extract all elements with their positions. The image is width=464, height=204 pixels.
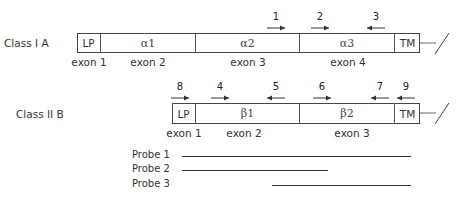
probe-label: Probe 1 bbox=[132, 149, 170, 160]
probe-label: Probe 2 bbox=[132, 163, 170, 174]
class-ii-break-slash-icon bbox=[435, 103, 449, 124]
gene-tails bbox=[0, 0, 464, 204]
probe-line bbox=[272, 185, 411, 186]
probe-label: Probe 3 bbox=[132, 178, 170, 189]
probe-line bbox=[182, 170, 328, 171]
probe-line bbox=[182, 156, 411, 157]
class-i-break-slash-icon bbox=[435, 33, 449, 54]
